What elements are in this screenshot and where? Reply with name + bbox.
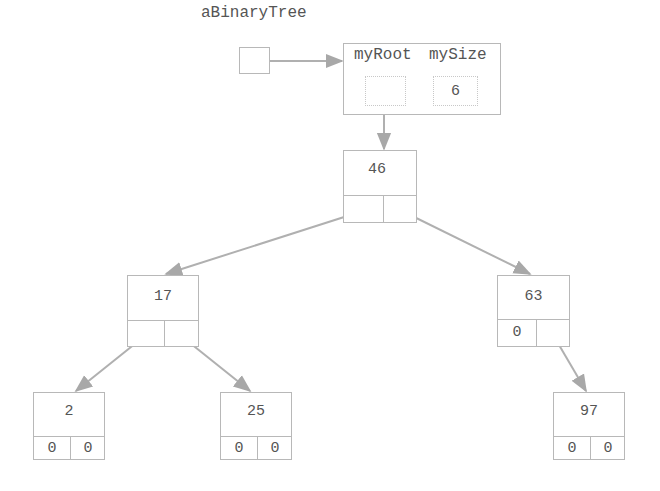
right-child-null: 0: [70, 440, 106, 457]
left-child-null: 0: [221, 440, 257, 457]
mySize-field-box: 6: [433, 76, 478, 106]
variable-name-label: aBinaryTree: [201, 4, 307, 22]
tree-node-17: 17: [127, 275, 199, 347]
node-split: [536, 319, 537, 346]
right-child-null: 0: [590, 440, 626, 457]
right-child-null: 0: [257, 440, 293, 457]
node-value: 25: [221, 403, 291, 420]
node-value: 97: [554, 403, 624, 420]
node-divider: [128, 320, 198, 321]
myRoot-field-box: [365, 76, 406, 106]
edge-46-to-17: [166, 210, 366, 274]
field-label-myRoot: myRoot: [354, 46, 412, 64]
left-child-null: 0: [554, 440, 590, 457]
left-child-null: 0: [34, 440, 70, 457]
mySize-value: 6: [434, 83, 477, 100]
node-split: [383, 195, 384, 222]
node-divider: [221, 436, 291, 437]
node-split: [164, 320, 165, 346]
tree-node-97: 97 0 0: [553, 392, 625, 460]
node-divider: [498, 319, 569, 320]
tree-object-box: myRoot mySize 6: [343, 43, 501, 115]
left-child-null: 0: [498, 324, 536, 341]
tree-node-63: 63 0: [497, 275, 570, 347]
node-divider: [344, 195, 416, 196]
tree-node-2: 2 0 0: [33, 392, 105, 460]
node-value: 46: [338, 161, 416, 178]
node-value: 2: [34, 403, 104, 420]
tree-node-46: 46: [343, 150, 417, 223]
node-divider: [34, 436, 104, 437]
node-value: 63: [498, 288, 569, 305]
variable-pointer-box: [239, 47, 270, 74]
tree-node-25: 25 0 0: [220, 392, 292, 460]
edge-46-to-63: [400, 210, 530, 274]
field-label-mySize: mySize: [429, 46, 487, 64]
node-divider: [554, 436, 624, 437]
node-value: 17: [128, 288, 198, 305]
